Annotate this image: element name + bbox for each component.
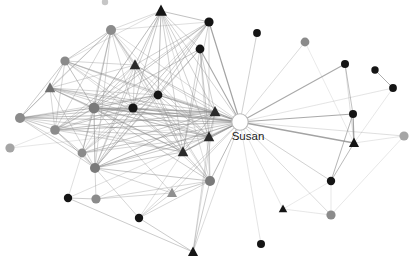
graph-edge [331,143,354,181]
graph-edge [139,152,183,218]
graph-node-circle[interactable] [301,38,310,47]
graph-node-circle[interactable] [15,113,25,123]
graph-edge [68,198,193,252]
graph-edge [240,122,404,136]
graph-node-circle[interactable] [349,110,357,118]
graph-edge [283,181,331,209]
graph-node-circle[interactable] [5,143,14,152]
graph-node-triangle[interactable] [279,204,288,212]
graph-node-circle[interactable] [89,103,100,114]
graph-edge [283,209,331,215]
graph-edge [161,11,209,22]
graph-edge [94,108,95,168]
graph-edge [65,30,111,61]
graph-edge [96,193,172,199]
network-graph-canvas: Susan [0,0,414,264]
graph-edge [240,64,345,122]
graph-node-circle[interactable] [205,176,215,186]
graph-node-circle[interactable] [60,56,69,65]
labels-layer: Susan [232,130,265,142]
network-svg: Susan [0,0,414,264]
graph-edge [135,22,209,65]
graph-node-triangle[interactable] [155,5,167,16]
graph-node-circle[interactable] [64,194,72,202]
graph-edge [240,33,257,122]
graph-node-circle[interactable] [50,125,60,135]
graph-node-circle[interactable] [91,194,100,203]
graph-edge [139,193,172,218]
graph-node-circle[interactable] [326,210,335,219]
graph-node-circle[interactable] [371,66,378,73]
graph-node-circle[interactable] [389,84,397,92]
graph-node-hub[interactable] [232,114,248,130]
graph-edge [50,88,55,130]
graph-edge [158,11,161,95]
hub-node-label: Susan [232,130,265,142]
graph-node-circle[interactable] [106,25,116,35]
graph-edge [68,153,82,198]
graph-node-circle[interactable] [257,240,265,248]
graph-node-circle[interactable] [341,60,349,68]
edges-layer [10,11,404,252]
graph-node-circle[interactable] [128,103,137,112]
graph-node-circle[interactable] [196,45,205,54]
graph-edge [82,108,94,153]
graph-node-circle[interactable] [102,0,108,5]
graph-node-circle[interactable] [78,149,87,158]
graph-node-circle[interactable] [253,29,261,37]
graph-node-circle[interactable] [90,163,100,173]
graph-node-circle[interactable] [204,17,213,26]
graph-edge [139,218,193,252]
graph-edge [354,136,404,143]
graph-node-triangle[interactable] [188,247,198,256]
graph-node-circle[interactable] [135,214,143,222]
graph-node-circle[interactable] [327,177,335,185]
graph-edge [331,114,353,181]
graph-node-circle[interactable] [399,131,408,140]
graph-node-circle[interactable] [154,91,163,100]
